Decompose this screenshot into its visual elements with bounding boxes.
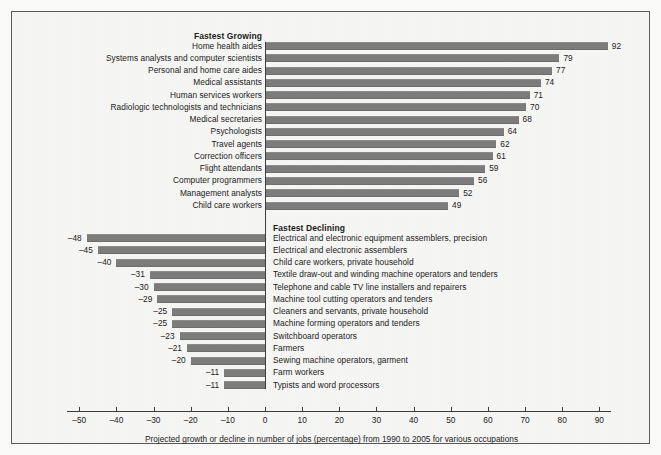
category-label-fastest_growing-3: Medical assistants <box>193 78 262 87</box>
x-tick-40 <box>414 407 415 411</box>
bar-fastest_growing-3 <box>266 79 541 87</box>
bar-fastest_growing-12 <box>266 189 459 197</box>
value-label-fastest_growing-0: 92 <box>612 42 621 51</box>
bar-fastest_declining-3 <box>150 271 265 279</box>
bar-fastest_growing-9 <box>266 152 493 160</box>
value-label-fastest_growing-5: 70 <box>530 103 539 112</box>
category-label-fastest_growing-8: Travel agents <box>211 140 262 149</box>
x-tick-label-70: 70 <box>505 415 545 425</box>
bar-fastest_declining-7 <box>172 320 265 328</box>
chart-frame: Fastest GrowingHome health aides92System… <box>11 11 650 444</box>
bar-fastest_declining-5 <box>157 295 265 303</box>
category-label-fastest_growing-1: Systems analysts and computer scientists <box>106 54 262 63</box>
value-label-fastest_growing-12: 52 <box>463 189 472 198</box>
x-tick--30 <box>154 407 155 411</box>
value-label-fastest_declining-0: –48 <box>12 234 82 243</box>
plot-area: Fastest GrowingHome health aides92System… <box>12 12 651 445</box>
zero-axis-line <box>265 42 266 389</box>
bar-fastest_declining-10 <box>191 357 265 365</box>
bar-fastest_growing-0 <box>266 42 608 50</box>
bar-fastest_growing-11 <box>266 177 474 185</box>
bar-fastest_growing-5 <box>266 103 526 111</box>
chart-page: Fastest GrowingHome health aides92System… <box>0 0 661 455</box>
x-tick-label--50: –50 <box>59 415 99 425</box>
value-label-fastest_declining-11: –11 <box>12 368 219 377</box>
category-label-fastest_growing-12: Management analysts <box>180 189 262 198</box>
value-label-fastest_growing-6: 68 <box>523 115 532 124</box>
bar-fastest_declining-0 <box>87 234 265 242</box>
value-label-fastest_declining-4: –30 <box>12 283 149 292</box>
x-tick--20 <box>191 407 192 411</box>
x-tick-label--40: –40 <box>96 415 136 425</box>
x-tick-30 <box>376 407 377 411</box>
value-label-fastest_growing-3: 74 <box>545 78 554 87</box>
x-tick-0 <box>265 407 266 411</box>
bar-fastest_growing-8 <box>266 140 496 148</box>
category-label-fastest_growing-9: Correction officers <box>194 152 262 161</box>
bar-fastest_growing-4 <box>266 91 530 99</box>
value-label-fastest_declining-8: –23 <box>12 332 175 341</box>
x-tick-20 <box>339 407 340 411</box>
value-label-fastest_growing-13: 49 <box>452 201 461 210</box>
x-tick-50 <box>451 407 452 411</box>
value-label-fastest_growing-8: 62 <box>500 140 509 149</box>
group-heading-fastest_growing: Fastest Growing <box>194 31 262 41</box>
x-tick--10 <box>228 407 229 411</box>
x-tick-label--20: –20 <box>171 415 211 425</box>
x-tick-70 <box>525 407 526 411</box>
category-label-fastest_declining-10: Sewing machine operators, garment <box>273 356 408 365</box>
x-tick-label-90: 90 <box>579 415 619 425</box>
x-tick-label-60: 60 <box>468 415 508 425</box>
category-label-fastest_declining-6: Cleaners and servants, private household <box>273 307 428 316</box>
chart-caption: Projected growth or decline in number of… <box>12 434 651 444</box>
value-label-fastest_growing-11: 56 <box>478 176 487 185</box>
value-label-fastest_declining-6: –25 <box>12 307 167 316</box>
value-label-fastest_declining-10: –20 <box>12 356 186 365</box>
category-label-fastest_growing-13: Child care workers <box>192 201 262 210</box>
value-label-fastest_declining-12: –11 <box>12 381 219 390</box>
bar-fastest_growing-6 <box>266 116 519 124</box>
x-tick--40 <box>116 407 117 411</box>
value-label-fastest_growing-10: 59 <box>489 164 498 173</box>
category-label-fastest_declining-3: Textile draw-out and winding machine ope… <box>273 270 498 279</box>
category-label-fastest_declining-8: Switchboard operators <box>273 332 357 341</box>
value-label-fastest_declining-1: –45 <box>12 246 93 255</box>
x-tick-label-40: 40 <box>394 415 434 425</box>
category-label-fastest_declining-2: Child care workers, private household <box>273 258 414 267</box>
bar-fastest_declining-2 <box>116 259 265 267</box>
category-label-fastest_growing-11: Computer programmers <box>173 176 262 185</box>
bar-fastest_declining-6 <box>172 308 265 316</box>
value-label-fastest_growing-2: 77 <box>556 66 565 75</box>
bar-fastest_growing-13 <box>266 202 448 210</box>
value-label-fastest_declining-9: –21 <box>12 344 182 353</box>
bar-fastest_growing-10 <box>266 165 485 173</box>
bar-fastest_growing-1 <box>266 54 559 62</box>
x-tick-label-10: 10 <box>282 415 322 425</box>
value-label-fastest_growing-1: 79 <box>563 54 572 63</box>
category-label-fastest_growing-6: Medical secretaries <box>190 115 262 124</box>
category-label-fastest_growing-10: Flight attendants <box>200 164 262 173</box>
value-label-fastest_declining-2: –40 <box>12 258 111 267</box>
category-label-fastest_growing-0: Home health aides <box>192 42 262 51</box>
x-tick-label-30: 30 <box>356 415 396 425</box>
group-heading-fastest_declining: Fastest Declining <box>273 223 345 233</box>
category-label-fastest_declining-11: Farm workers <box>273 368 324 377</box>
x-tick--50 <box>79 407 80 411</box>
category-label-fastest_declining-5: Machine tool cutting operators and tende… <box>273 295 432 304</box>
x-tick-label-80: 80 <box>542 415 582 425</box>
category-label-fastest_growing-7: Psychologists <box>211 127 262 136</box>
value-label-fastest_growing-7: 64 <box>508 127 517 136</box>
value-label-fastest_declining-7: –25 <box>12 319 167 328</box>
category-label-fastest_declining-9: Farmers <box>273 344 304 353</box>
x-tick-80 <box>562 407 563 411</box>
x-tick-label-0: 0 <box>245 415 285 425</box>
bar-fastest_declining-9 <box>187 344 265 352</box>
x-axis-line <box>67 411 611 412</box>
x-tick-label--30: –30 <box>134 415 174 425</box>
category-label-fastest_growing-4: Human services workers <box>170 91 262 100</box>
value-label-fastest_growing-9: 61 <box>497 152 506 161</box>
value-label-fastest_declining-5: –29 <box>12 295 152 304</box>
x-tick-label--10: –10 <box>208 415 248 425</box>
x-tick-10 <box>302 407 303 411</box>
category-label-fastest_growing-2: Personal and home care aides <box>148 66 262 75</box>
